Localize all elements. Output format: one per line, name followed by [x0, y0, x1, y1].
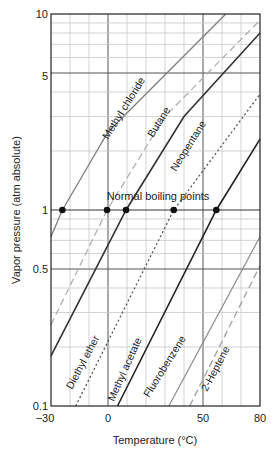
- boiling-point-marker: [213, 207, 220, 214]
- y-tick-0-5: 0.5: [33, 263, 48, 275]
- x-tick-50: 50: [197, 412, 209, 424]
- series-line-butane: [51, 20, 260, 324]
- series-line-methyl-acetate: [118, 139, 261, 406]
- y-tick-5: 5: [42, 70, 48, 82]
- boiling-point-marker: [123, 207, 130, 214]
- label-butane: Butane: [145, 104, 173, 139]
- y-tick-1: 1: [42, 204, 48, 216]
- x-axis-label: Temperature (°C): [113, 434, 197, 446]
- label-diethyl-ether: Diethyl ether: [63, 333, 102, 391]
- y-axis-label: Vapor pressure (atm absolute): [10, 136, 22, 284]
- boiling-point-marker: [104, 207, 111, 214]
- label-neopentane: Neopentane: [168, 118, 209, 173]
- label-fluorobenzene: Fluorobenzene: [141, 333, 188, 399]
- vapor-pressure-chart: 10 5 1 0.5 0.1 −30 0 50 80 Temperature (…: [0, 0, 278, 454]
- x-tick-80: 80: [254, 412, 266, 424]
- y-tick-10: 10: [36, 8, 48, 20]
- y-tick-0-1: 0.1: [33, 400, 48, 412]
- x-tick-0: 0: [105, 412, 111, 424]
- label-methyl-chloride: Methyl chloride: [100, 75, 148, 141]
- x-tick-minus30: −30: [36, 412, 55, 424]
- boiling-point-marker: [59, 207, 66, 214]
- boiling-points-annotation: Normal boiling points: [107, 190, 210, 202]
- boiling-point-marker: [170, 207, 177, 214]
